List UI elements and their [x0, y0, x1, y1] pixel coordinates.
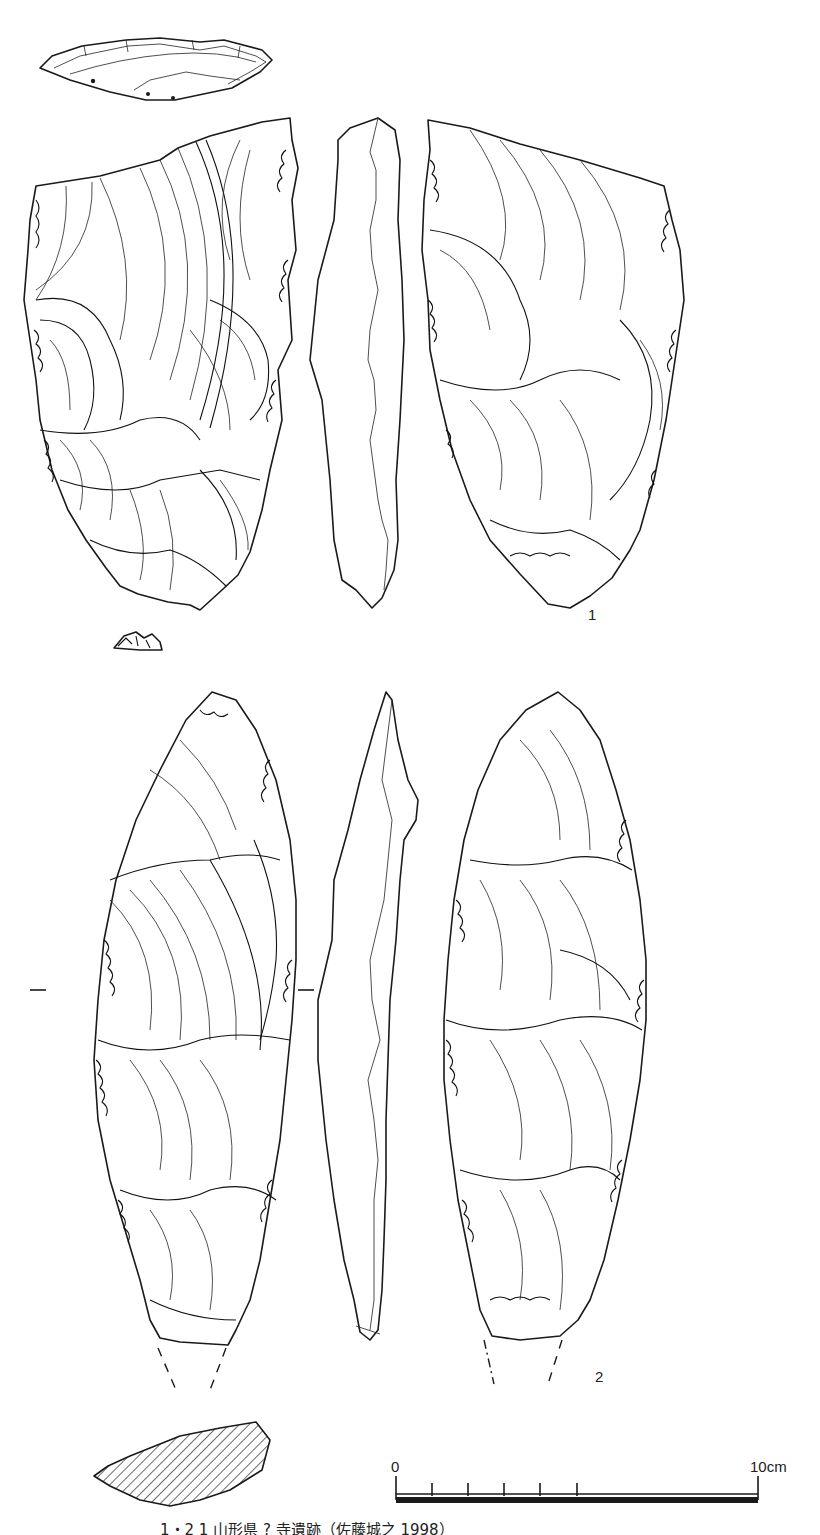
scale-end-label: 10cm — [750, 1458, 787, 1475]
artifact-2-lateral-profile — [318, 692, 418, 1340]
artifact-2-cross-section — [94, 1422, 270, 1506]
artifact-1-lateral-profile — [310, 118, 404, 608]
artifact-1-platform-view — [40, 38, 272, 100]
artifact-2-reconstruction-dashes — [158, 1340, 562, 1390]
artifact-1-number-label: 1 — [588, 606, 596, 623]
artifact-2-ventral-face — [444, 692, 646, 1340]
scale-start-label: 0 — [391, 1458, 399, 1475]
artifact-1-ventral-face — [422, 120, 684, 608]
artifact-2-number-label: 2 — [595, 1368, 603, 1385]
scale-bar — [396, 1476, 758, 1503]
artifact-1-dorsal-face — [24, 118, 298, 610]
artifact-1-basal-fragment — [114, 632, 162, 650]
figure-canvas — [0, 0, 820, 1535]
figure-caption: 1・2 1 山形県 ? 寺遺跡（佐藤城之 1998） — [160, 1518, 454, 1535]
artifact-2-dorsal-face — [94, 692, 296, 1345]
